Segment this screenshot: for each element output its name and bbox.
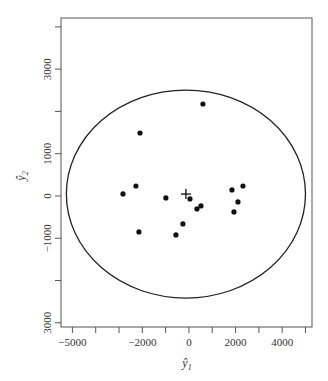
data-point bbox=[198, 203, 203, 208]
x-tick-label: −5000 bbox=[58, 336, 87, 348]
data-point bbox=[133, 183, 138, 188]
data-point bbox=[137, 130, 142, 135]
y-axis: 300010000−10003000 bbox=[41, 27, 61, 334]
data-point bbox=[200, 101, 205, 106]
y-axis-title: ŷ2 bbox=[14, 171, 30, 181]
x-tick-label: 0 bbox=[186, 336, 192, 348]
x-axis-title: ŷ1 bbox=[181, 356, 191, 372]
y-tick-label: 3000 bbox=[41, 58, 53, 81]
scatter-chart: −5000−2000020004000 300010000−10003000 ŷ… bbox=[0, 0, 328, 381]
data-point bbox=[180, 221, 185, 226]
data-point bbox=[229, 187, 234, 192]
x-tick-label: −2000 bbox=[128, 336, 157, 348]
data-point bbox=[235, 199, 240, 204]
data-point bbox=[240, 183, 245, 188]
x-tick-label: 4000 bbox=[271, 336, 294, 348]
data-point bbox=[187, 196, 192, 201]
x-axis: −5000−2000020004000 bbox=[58, 327, 305, 348]
data-point bbox=[231, 209, 236, 214]
plot-frame bbox=[61, 18, 312, 327]
y-tick-label: 0 bbox=[41, 193, 53, 199]
data-points bbox=[120, 101, 245, 237]
y-tick-label: 3000 bbox=[41, 311, 53, 334]
data-point bbox=[136, 229, 141, 234]
data-point bbox=[120, 191, 125, 196]
data-point bbox=[163, 195, 168, 200]
x-tick-label: 2000 bbox=[225, 336, 248, 348]
data-point bbox=[173, 232, 178, 237]
y-tick-label: −1000 bbox=[41, 224, 53, 253]
y-tick-label: 1000 bbox=[41, 142, 53, 165]
